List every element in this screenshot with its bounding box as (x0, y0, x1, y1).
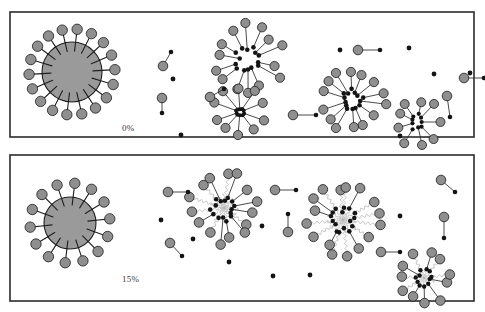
pair-dot (169, 50, 174, 55)
cluster-outer-node (427, 248, 437, 258)
hub-leaf-node (26, 54, 36, 64)
cluster-outer-node (248, 208, 258, 218)
hub-leaf-node (27, 84, 37, 94)
pair-node (436, 175, 446, 185)
cluster-outer-node (264, 35, 273, 44)
cluster-outer-node (331, 123, 340, 132)
pair-node (157, 93, 167, 103)
cluster-outer-node (216, 240, 226, 250)
pair-node (165, 238, 175, 248)
cluster-outer-node (310, 206, 320, 216)
dot-6 (468, 71, 473, 76)
cluster-outer-node (369, 111, 378, 120)
cluster-inner-dot (230, 199, 235, 204)
cluster-inner-dot (422, 284, 426, 288)
pair-node (205, 92, 215, 102)
dot-10 (227, 260, 232, 265)
cluster-outer-node (398, 286, 408, 296)
cluster-inner-dot (429, 275, 433, 279)
pair-dot (453, 190, 458, 195)
cluster-outer-node (417, 98, 426, 107)
dot-2 (179, 133, 184, 138)
dot-8 (159, 218, 164, 223)
cluster-inner-dot (234, 66, 239, 71)
cluster-outer-node (278, 41, 287, 50)
hub-leaf-node (102, 231, 112, 241)
pair-node (163, 187, 173, 197)
cluster-outer-node (436, 296, 446, 306)
pair-dot (314, 113, 319, 118)
cluster-outer-node (436, 117, 445, 126)
cluster-inner-dot (350, 107, 355, 112)
cluster-outer-node (342, 252, 352, 262)
cluster-outer-node (349, 123, 358, 132)
two-panel-network-figure: 0%15% (0, 0, 485, 312)
cluster-outer-node (232, 169, 242, 179)
pair-dot (378, 48, 383, 53)
cluster-outer-node (400, 139, 409, 148)
cluster-inner-dot (417, 112, 421, 116)
cluster-inner-dot (411, 114, 415, 118)
cluster-outer-node (309, 194, 319, 204)
cluster-outer-node (400, 100, 409, 109)
cluster-outer-node (418, 141, 427, 150)
cluster-outer-node (420, 298, 430, 308)
panels-layer: 0%15% (10, 12, 485, 308)
cluster-outer-node (327, 250, 337, 260)
cluster-inner-dot (353, 211, 358, 216)
hub-leaf-node (37, 189, 47, 199)
cluster-inner-dot (340, 210, 345, 215)
pair-dot (180, 254, 185, 259)
hub-disc (42, 42, 102, 102)
cluster-inner-dot (343, 100, 348, 105)
dot-14 (398, 214, 403, 219)
hub-leaf-node (43, 252, 53, 262)
cluster-inner-dot (330, 219, 335, 224)
cluster-outer-node (429, 135, 438, 144)
pair-node (442, 91, 452, 101)
cluster-outer-node (346, 67, 355, 76)
cluster-inner-dot (218, 199, 223, 204)
hub-leaf-node (86, 184, 96, 194)
dot-3 (338, 48, 343, 53)
cluster-inner-dot (342, 95, 347, 100)
cluster-inner-dot (357, 103, 362, 108)
pair-dot (286, 212, 291, 217)
panel-label: 0% (122, 123, 135, 133)
cluster-outer-node (379, 89, 388, 98)
pair-node (288, 110, 298, 120)
cluster-inner-dot (229, 214, 234, 219)
cluster-outer-node (408, 292, 418, 302)
cluster-inner-dot (416, 125, 420, 129)
cluster-inner-dot (211, 212, 216, 217)
cluster-outer-node (369, 78, 378, 87)
cluster-inner-dot (245, 47, 250, 52)
cluster-outer-node (187, 207, 197, 217)
panel-label: 15% (122, 274, 140, 284)
cluster-inner-dot (257, 53, 262, 58)
cluster-inner-dot (335, 229, 340, 234)
hub-leaf-node (108, 79, 118, 89)
pair-dot (448, 115, 453, 120)
cluster-outer-node (215, 50, 224, 59)
cluster-outer-node (358, 120, 367, 129)
cluster-inner-dot (355, 93, 360, 98)
hub-leaf-node (78, 256, 88, 266)
cluster-outer-node (275, 73, 284, 82)
cluster-inner-dot (214, 197, 219, 202)
hub-leaf-node (72, 24, 82, 34)
cluster-inner-dot (341, 91, 346, 96)
cluster-outer-node (224, 233, 234, 243)
hub-inner-tick (93, 70, 102, 71)
cluster-outer-node (309, 232, 319, 242)
cluster-inner-dot (410, 121, 414, 125)
hub-leaf-node (77, 109, 87, 119)
cluster-outer-node (375, 209, 385, 219)
cluster-outer-node (445, 270, 455, 280)
hub-leaf-node (98, 37, 108, 47)
cluster-inner-dot (224, 219, 229, 224)
dot-4 (407, 46, 412, 51)
cluster-inner-dot (333, 207, 338, 212)
cluster-outer-node (206, 228, 216, 238)
hub-leaf-node (57, 25, 67, 35)
